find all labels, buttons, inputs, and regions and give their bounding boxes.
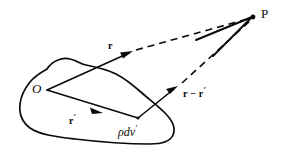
field-point-label: P	[261, 7, 268, 20]
vector-r-minus-r-prime-label: r − r′	[183, 86, 206, 99]
source-element-label-base: ρdv	[118, 125, 135, 139]
vector-r-minus-r-prime-label-base: r − r	[183, 88, 203, 99]
source-point-dot	[137, 117, 140, 120]
vector-r-prime-label: r′	[69, 113, 76, 126]
vector-r-label: r	[108, 41, 113, 51]
vector-diagram-svg	[0, 0, 281, 155]
vector-r-arrowhead	[120, 51, 133, 59]
figure-canvas: P O r r′ r − r′ ρdv′	[0, 0, 281, 155]
charge-distribution-blob	[20, 58, 174, 144]
field-point-dot	[251, 15, 256, 20]
vector-r-prime-label-mark: ′	[74, 112, 77, 122]
source-element-label: ρdv′	[118, 124, 137, 138]
vector-r-minus-r-prime-label-mark: ′	[203, 85, 206, 95]
vector-r-prime-arrowhead	[90, 108, 103, 115]
vector-r-solid	[47, 53, 129, 90]
origin-label: O	[32, 82, 41, 95]
vector-r-minus-r-prime-arrowhead	[166, 86, 178, 94]
source-element-label-mark: ′	[135, 123, 137, 133]
line-to-field-point-upper	[196, 17, 252, 40]
